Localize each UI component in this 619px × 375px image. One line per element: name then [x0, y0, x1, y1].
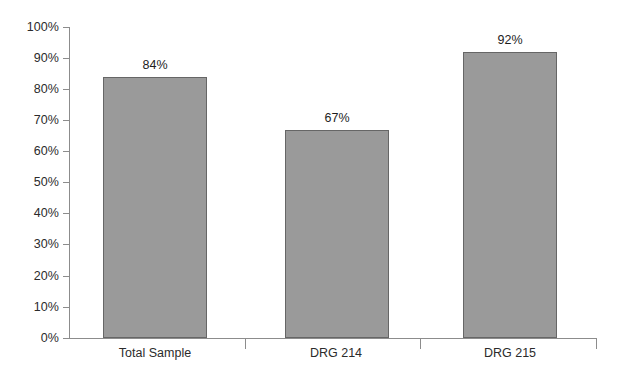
- y-axis-tick-label-80: 80%: [0, 82, 59, 96]
- x-axis-label-total-sample: Total Sample: [85, 346, 225, 360]
- y-axis-tick-label-40: 40%: [0, 206, 59, 220]
- y-axis-tick-label-10: 10%: [0, 300, 59, 314]
- y-axis-tick-mark-80: [63, 89, 70, 90]
- x-axis-label-drg-214: DRG 214: [266, 346, 406, 360]
- x-axis-end-tick: [596, 339, 597, 349]
- y-axis-line: [69, 27, 70, 339]
- y-axis-tick-label-30: 30%: [0, 237, 59, 251]
- y-axis-tick-mark-50: [63, 182, 70, 183]
- y-axis-tick-mark-30: [63, 244, 70, 245]
- bar-value-drg-215: 92%: [463, 33, 557, 47]
- y-axis-tick-label-100: 100%: [0, 20, 59, 34]
- y-axis-tick-label-70: 70%: [0, 113, 59, 127]
- bar-drg-215[interactable]: [463, 52, 557, 338]
- y-axis-tick-label-50: 50%: [0, 175, 59, 189]
- y-axis-tick-label-20: 20%: [0, 269, 59, 283]
- x-axis-separator-1: [245, 339, 246, 349]
- y-axis-tick-mark-40: [63, 213, 70, 214]
- bar-total-sample[interactable]: [103, 77, 207, 338]
- bar-value-drg-214: 67%: [285, 111, 389, 125]
- x-axis-separator-2: [420, 339, 421, 349]
- y-axis-tick-mark-90: [63, 58, 70, 59]
- y-axis-tick-mark-100: [63, 27, 70, 28]
- y-axis-tick-mark-70: [63, 120, 70, 121]
- bar-value-total-sample: 84%: [103, 58, 207, 72]
- bar-chart: 100% 90% 80% 70% 60% 50% 40% 30% 20% 10%…: [0, 0, 619, 375]
- x-axis-label-drg-215: DRG 215: [440, 346, 580, 360]
- y-axis-tick-label-0: 0%: [0, 331, 59, 345]
- bar-drg-214[interactable]: [285, 130, 389, 338]
- y-axis-tick-mark-20: [63, 276, 70, 277]
- x-axis-line: [69, 338, 597, 339]
- y-axis-tick-mark-60: [63, 151, 70, 152]
- y-axis-tick-label-60: 60%: [0, 144, 59, 158]
- y-axis-tick-mark-10: [63, 307, 70, 308]
- y-axis-tick-label-90: 90%: [0, 51, 59, 65]
